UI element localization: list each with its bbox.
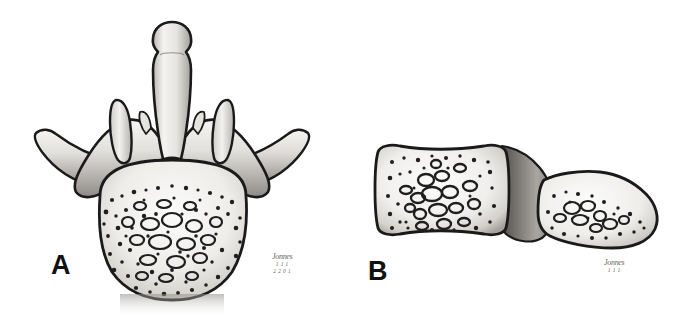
- artist-signature-a: Jonnes 1 1 1 2 2 0 1: [272, 252, 292, 274]
- spinous-process: [153, 22, 191, 162]
- panel-label-b: B: [368, 258, 388, 285]
- signature-sub2-a: 2 2 0 1: [272, 268, 292, 274]
- signature-name-a: Jonnes: [272, 252, 292, 261]
- artist-signature-b: Jonnes 1 1 1: [604, 258, 624, 274]
- signature-name-b: Jonnes: [604, 258, 624, 267]
- panel-a: A Jonnes 1 1 1 2 2 0 1: [0, 0, 344, 317]
- panel-b: B Jonnes 1 1 1: [344, 0, 688, 317]
- figure-root: A Jonnes 1 1 1 2 2 0 1: [0, 0, 688, 317]
- compressed-vertebral-body: [538, 171, 657, 248]
- normal-vertebral-body: [375, 145, 509, 235]
- panel-label-a: A: [51, 252, 71, 279]
- vertebral-body: [99, 160, 246, 317]
- vertebra-lateral-view: [344, 0, 688, 317]
- signature-sub-b: 1 1 1: [604, 267, 624, 273]
